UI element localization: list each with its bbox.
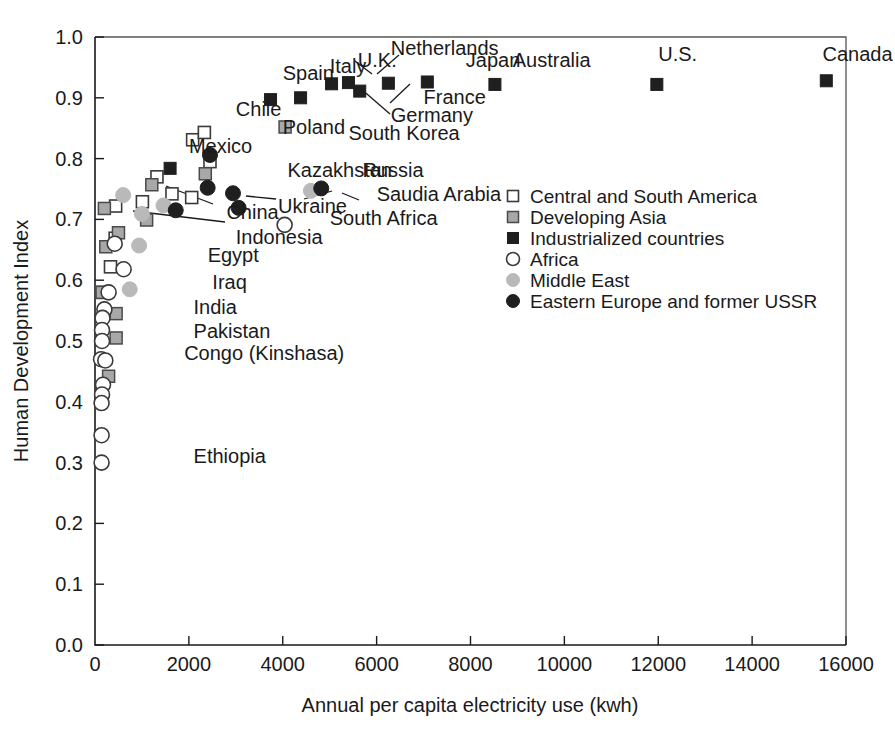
data-point-marker [225,186,240,201]
data-point-marker [199,168,211,180]
y-tick-label: 0.0 [55,634,83,656]
data-point-marker [186,192,198,204]
legend-marker [507,295,520,308]
point-label: South Africa [330,207,439,229]
data-point-marker [354,85,366,97]
x-tick-label: 6000 [354,653,399,675]
data-point-marker [134,206,149,221]
data-point-marker [132,238,147,253]
legend-label: Industrialized countries [530,228,724,249]
data-point-marker [166,188,178,200]
point-label: China [226,201,279,223]
data-point-marker [116,188,131,203]
legend-label: Central and South America [530,186,758,207]
x-tick-label: 8000 [448,653,493,675]
y-tick-label: 0.8 [55,148,83,170]
point-label: Saudia Arabia [377,183,502,205]
point-label: Egypt [208,244,260,266]
legend-label: Developing Asia [530,207,667,228]
x-tick-label: 2000 [167,653,212,675]
point-label: Russia [363,159,425,181]
x-tick-label: 4000 [261,653,306,675]
x-tick-label: 0 [89,653,100,675]
data-point-marker [164,162,176,174]
y-tick-label: 0.9 [55,87,83,109]
y-tick-label: 0.4 [55,391,83,413]
point-label: Canada [823,43,894,65]
y-tick-label: 0.6 [55,269,83,291]
x-tick-label: 12000 [630,653,686,675]
point-label: South Korea [348,122,460,144]
data-point-marker [295,92,307,104]
data-point-marker [94,396,109,411]
data-point-marker [107,236,122,251]
x-tick-label: 14000 [724,653,780,675]
y-tick-label: 1.0 [55,26,83,48]
data-point-marker [110,332,122,344]
y-axis-title: Human Development Index [10,220,32,462]
y-tick-label: 0.2 [55,512,83,534]
data-point-marker [95,334,110,349]
point-label: Mexico [189,135,252,157]
point-label: Italy [330,55,367,77]
legend: Central and South AmericaDeveloping Asia… [507,186,818,312]
data-point-marker [168,203,183,218]
point-label: Poland [283,116,345,138]
legend-marker [507,253,520,266]
data-point-marker [94,428,109,443]
data-point-marker [94,455,109,470]
y-axis-tick-labels: 0.00.10.20.30.40.50.60.70.80.91.0 [55,26,83,656]
legend-marker [508,191,519,202]
scatter-plot-svg: 0200040006000800010000120001400016000 0.… [0,0,895,739]
point-label: U.S. [658,43,697,65]
point-label: India [194,296,238,318]
y-tick-label: 0.7 [55,208,83,230]
x-axis-tick-labels: 0200040006000800010000120001400016000 [89,653,873,675]
data-point-marker [342,77,354,89]
legend-label: Africa [530,249,579,270]
data-point-marker [489,78,501,90]
point-label: Congo (Kinshasa) [184,342,344,364]
data-point-marker [116,262,131,277]
point-label: Chile [236,98,282,120]
point-label: Iraq [212,271,246,293]
data-point-marker [314,181,329,196]
x-tick-label: 16000 [818,653,874,675]
data-point-marker [98,202,110,214]
y-tick-label: 0.1 [55,573,83,595]
legend-marker [508,212,519,223]
point-label: Pakistan [194,320,271,342]
data-point-marker [820,75,832,87]
y-tick-label: 0.5 [55,330,83,352]
data-point-marker [146,179,158,191]
data-point-marker [104,261,116,273]
point-label: Spain [283,62,334,84]
point-label: Australia [513,49,592,71]
x-axis-title: Annual per capita electricity use (kwh) [302,694,639,716]
point-label: Ethiopia [194,445,267,467]
legend-label: Eastern Europe and former USSR [530,291,817,312]
chart-figure: 0200040006000800010000120001400016000 0.… [0,0,895,739]
x-axis-ticks [189,636,846,645]
data-point-marker [122,282,137,297]
data-point-marker [98,353,113,368]
legend-marker [508,233,519,244]
data-point-marker [200,180,215,195]
data-point-marker [651,78,663,90]
legend-label: Middle East [530,270,630,291]
x-tick-label: 10000 [537,653,593,675]
data-point-marker [101,285,116,300]
legend-marker [507,274,520,287]
data-point-marker [382,77,394,89]
y-tick-label: 0.3 [55,452,83,474]
